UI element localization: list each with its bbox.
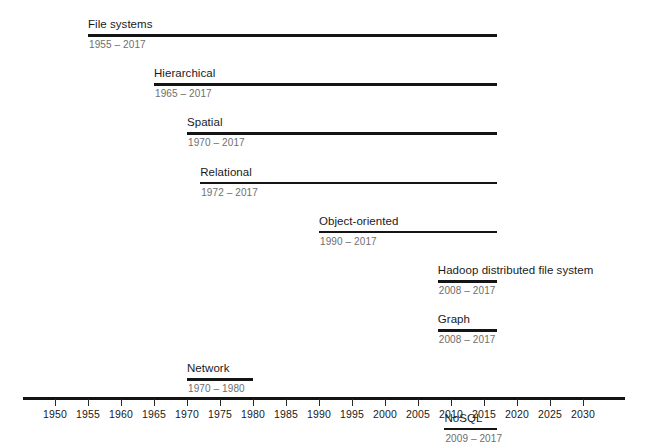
timeline-bar-range-text: 1965 – 2017 [155, 88, 212, 100]
axis-tick [352, 399, 353, 406]
timeline-bar-line [187, 132, 497, 135]
axis-tick [253, 399, 254, 406]
timeline-bar-label: File systems [88, 18, 153, 31]
timeline-bar-label: Graph [438, 313, 470, 326]
timeline-bar-range-text: 1970 – 1980 [188, 383, 245, 395]
timeline-bar-line [187, 378, 253, 381]
timeline-bar-range-text: 1990 – 2017 [320, 236, 377, 248]
timeline-bar-line [154, 83, 497, 86]
timeline-bar-line [88, 34, 497, 37]
axis-tick [286, 399, 287, 406]
axis-tick [319, 399, 320, 406]
axis-tick [517, 399, 518, 406]
timeline-bar-range-text: 1970 – 2017 [188, 137, 245, 149]
axis-tick [187, 399, 188, 406]
timeline-bar-range-text: 1955 – 2017 [89, 39, 146, 51]
timeline-bar-line [438, 329, 497, 332]
timeline-bar-label: Relational [200, 166, 252, 179]
timeline-bar-label: Network [187, 362, 230, 375]
timeline-bar-line [200, 182, 497, 185]
axis-tick [121, 399, 122, 406]
axis-tick [418, 399, 419, 406]
axis-tick [88, 399, 89, 406]
timeline-bar-line [438, 280, 497, 283]
axis-tick [550, 399, 551, 406]
axis-tick [583, 399, 584, 406]
timeline-bar-label: Hadoop distributed file system [438, 264, 594, 277]
axis-tick [385, 399, 386, 406]
axis-tick [451, 399, 452, 406]
timeline-bar-line [319, 231, 497, 234]
axis-tick [484, 399, 485, 406]
axis-tick [220, 399, 221, 406]
timeline-bar-label: Hierarchical [154, 67, 215, 80]
timeline-bar-range-text: 2008 – 2017 [439, 334, 496, 346]
axis-tick-label: 2030 [563, 408, 603, 421]
timeline-bar-label: Spatial [187, 116, 223, 129]
timeline-bar-label: Object-oriented [319, 215, 398, 228]
axis-tick [55, 399, 56, 406]
axis-tick [154, 399, 155, 406]
timeline-bar-range-text: 2008 – 2017 [439, 285, 496, 297]
year-axis: 1950195519601965197019751980198519901995… [23, 397, 625, 437]
axis-baseline [23, 397, 625, 400]
timeline-chart: File systems1955 – 2017Hierarchical1965 … [0, 0, 659, 446]
timeline-bar-range-text: 1972 – 2017 [201, 187, 258, 199]
